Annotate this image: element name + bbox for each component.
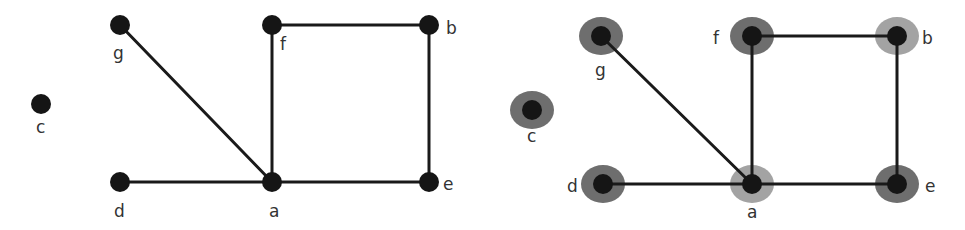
node-label: f (713, 28, 720, 48)
node-label: c (527, 126, 536, 146)
node-label: d (567, 176, 578, 196)
node-a: a (262, 172, 282, 221)
graph-diagram-canvas: gfbcdae gfbcdae (0, 0, 965, 230)
edge-g-a (120, 25, 272, 182)
edge-g-a (601, 36, 752, 184)
node-label: f (280, 34, 287, 54)
node-g: g (110, 15, 130, 63)
node-label: d (114, 201, 125, 221)
node-label: e (443, 174, 453, 194)
node-dot (262, 15, 282, 35)
node-f: f (262, 15, 287, 54)
edges (120, 25, 429, 182)
node-dot (742, 26, 762, 46)
colored-graph: gfbcdae (510, 17, 935, 222)
node-label: c (36, 117, 45, 137)
plain-graph: gfbcdae (31, 15, 457, 221)
node-label: b (446, 18, 457, 38)
node-dot (110, 15, 130, 35)
node-dot (742, 174, 762, 194)
node-label: a (747, 202, 757, 222)
edges (601, 36, 897, 184)
node-label: e (925, 176, 935, 196)
node-dot (110, 172, 130, 192)
node-label: a (269, 201, 279, 221)
node-dot (593, 174, 613, 194)
node-label: b (922, 28, 933, 48)
node-e: e (419, 172, 453, 194)
node-dot (262, 172, 282, 192)
node-b: b (419, 15, 457, 38)
node-label: g (595, 60, 606, 80)
node-dot (887, 26, 907, 46)
node-c: c (31, 94, 51, 137)
node-dot (419, 15, 439, 35)
node-label: g (113, 43, 124, 63)
node-d: d (110, 172, 130, 221)
node-dot (887, 174, 907, 194)
node-dot (591, 26, 611, 46)
node-dot (31, 94, 51, 114)
node-dot (522, 100, 542, 120)
node-dot (419, 172, 439, 192)
